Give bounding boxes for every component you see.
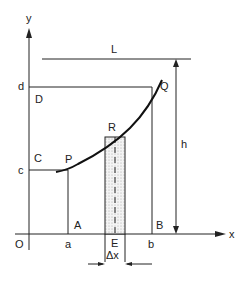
point-D-label: D bbox=[35, 93, 43, 105]
point-B-label: B bbox=[156, 219, 163, 231]
delta-x-label: Δx bbox=[106, 249, 119, 261]
y-axis bbox=[26, 28, 32, 250]
x-axis-label: x bbox=[229, 228, 235, 240]
point-R-label: R bbox=[108, 121, 116, 133]
y-tick-d: d bbox=[18, 80, 24, 92]
point-C-label: C bbox=[34, 152, 42, 164]
y-axis-label: y bbox=[26, 12, 32, 24]
x-tick-E: E bbox=[111, 237, 118, 249]
height-h-label: h bbox=[181, 138, 187, 150]
point-P-label: P bbox=[65, 153, 72, 165]
height-h-arrow bbox=[173, 59, 179, 234]
delta-x-left-arrow-icon bbox=[98, 262, 105, 266]
line-L-label: L bbox=[111, 43, 117, 55]
y-axis-arrow-icon bbox=[26, 28, 32, 38]
x-axis-arrow-icon bbox=[215, 231, 226, 237]
point-A-label: A bbox=[74, 219, 82, 231]
origin-label: O bbox=[15, 238, 24, 250]
h-up-arrow-icon bbox=[173, 59, 179, 67]
h-down-arrow-icon bbox=[173, 226, 179, 234]
strip-delta-x bbox=[105, 137, 125, 234]
x-tick-b: b bbox=[148, 238, 154, 250]
area-under-curve-diagram: y x O L d D c C a A P b B Q R E Δx h bbox=[0, 0, 241, 281]
x-tick-a: a bbox=[65, 238, 72, 250]
delta-x-right-arrow-icon bbox=[125, 262, 132, 266]
y-tick-c: c bbox=[18, 164, 24, 176]
